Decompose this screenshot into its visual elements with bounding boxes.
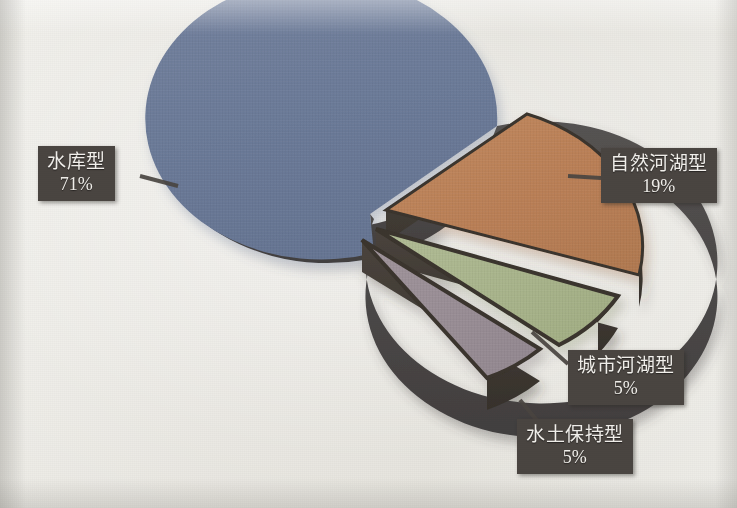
callout-reservoir[interactable]: 水库型 71% (38, 146, 115, 201)
callout-reservoir-name: 水库型 (47, 151, 106, 172)
callout-natural[interactable]: 自然河湖型 19% (601, 148, 717, 203)
callout-urban[interactable]: 城市河湖型 5% (568, 350, 684, 405)
callout-natural-value: 19% (610, 176, 708, 196)
callout-reservoir-value: 71% (47, 174, 106, 194)
leader-line-natural (568, 176, 601, 178)
callout-soil-name: 水土保持型 (526, 424, 624, 445)
callout-urban-name: 城市河湖型 (577, 355, 675, 376)
callout-soil[interactable]: 水土保持型 5% (517, 419, 633, 474)
callout-urban-value: 5% (577, 378, 675, 398)
pie-chart-figure: 水库型 71% 自然河湖型 19% 城市河湖型 5% 水土保持型 5% (0, 0, 737, 508)
callout-natural-name: 自然河湖型 (610, 153, 708, 174)
callout-soil-value: 5% (526, 447, 624, 467)
